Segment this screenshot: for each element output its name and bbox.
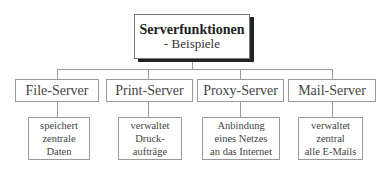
connector-print-detail	[148, 102, 149, 117]
detail-print-server: verwaltet Druck- aufträge	[118, 117, 182, 160]
node-label: Mail-Server	[298, 83, 366, 99]
detail-line: zentral	[316, 132, 345, 145]
detail-file-server: speichert zentrale Daten	[28, 117, 90, 160]
detail-mail-server: verwaltet zentral alle E-Mails	[298, 117, 363, 160]
connector-mail	[332, 69, 333, 79]
detail-line: aufträge	[133, 145, 167, 158]
detail-line: verwaltet	[130, 119, 169, 132]
detail-line: speichert	[40, 119, 78, 132]
horizontal-connector	[57, 69, 333, 70]
detail-line: an das Internet	[210, 145, 272, 158]
detail-line: Druck-	[135, 132, 165, 145]
node-print-server: Print-Server	[106, 79, 193, 102]
connector-file-detail	[57, 102, 58, 117]
root-subtitle: - Beispiele	[164, 37, 220, 51]
node-mail-server: Mail-Server	[288, 79, 376, 102]
node-label: Proxy-Server	[203, 83, 278, 99]
node-label: File-Server	[26, 83, 89, 99]
detail-line: Anbindung	[217, 119, 264, 132]
root-connector	[192, 62, 193, 69]
detail-proxy-server: Anbindung eines Netzes an das Internet	[202, 117, 280, 160]
node-proxy-server: Proxy-Server	[197, 79, 284, 102]
detail-line: zentrale	[42, 132, 75, 145]
connector-print	[148, 69, 149, 79]
detail-line: verwaltet	[311, 119, 350, 132]
connector-file	[57, 69, 58, 79]
detail-line: Daten	[46, 145, 71, 158]
connector-mail-detail	[332, 102, 333, 117]
connector-proxy	[240, 69, 241, 79]
detail-line: alle E-Mails	[305, 145, 357, 158]
node-label: Print-Server	[115, 83, 183, 99]
connector-proxy-detail	[240, 102, 241, 117]
root-title: Serverfunktionen	[140, 22, 245, 37]
node-file-server: File-Server	[15, 79, 99, 102]
root-node: Serverfunktionen - Beispiele	[134, 14, 250, 59]
detail-line: eines Netzes	[215, 132, 268, 145]
